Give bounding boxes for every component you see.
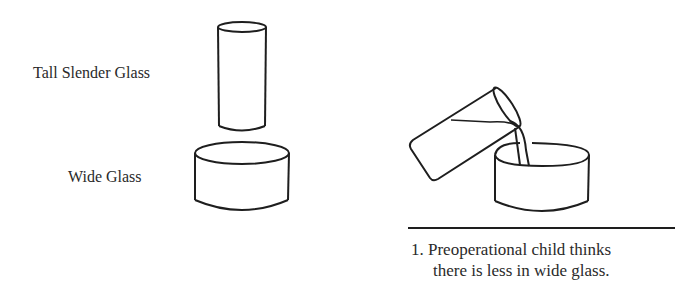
- caption-line-1: 1. Preoperational child thinks: [411, 239, 611, 260]
- wide-glass-icon: [195, 142, 289, 210]
- caption-line-2: there is less in wide glass.: [411, 260, 611, 281]
- tall-glass-icon: [218, 22, 266, 131]
- wide-glass-right-icon: [495, 143, 589, 211]
- pouring-glass-icon: [410, 84, 525, 180]
- caption: 1. Preoperational child thinks there is …: [411, 239, 611, 281]
